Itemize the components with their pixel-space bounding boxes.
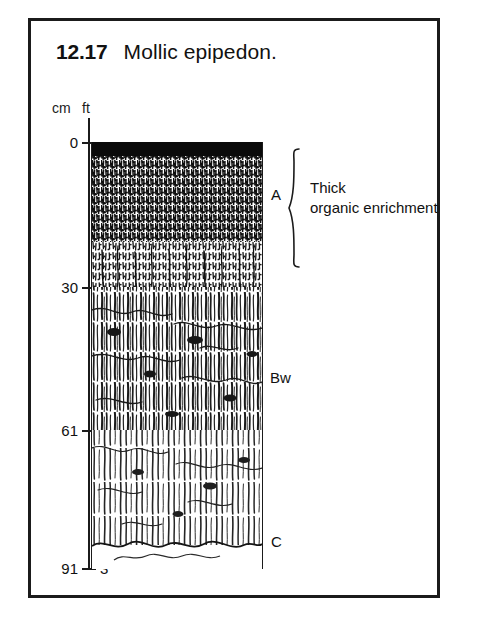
c-horizon-fill xyxy=(92,430,262,569)
soil-profile-drawing xyxy=(92,142,262,569)
depth-label-cm-91: 91 xyxy=(44,560,78,577)
depth-label-cm-30: 30 xyxy=(44,279,78,296)
annotation-text: Thick organic enrichment xyxy=(310,178,438,218)
horizon-label-bw: Bw xyxy=(270,369,291,386)
figure-title: Mollic epipedon. xyxy=(124,40,277,63)
depth-label-cm-0: 0 xyxy=(44,134,78,151)
depth-label-cm-61: 61 xyxy=(44,422,78,439)
depth-axis-line xyxy=(88,118,90,569)
figure-number: 12.17 xyxy=(56,40,108,63)
horizon-label-c: C xyxy=(271,533,282,550)
axis-unit-ft: ft xyxy=(82,100,90,116)
bw-horizon-fill xyxy=(92,287,262,430)
soil-profile xyxy=(92,142,262,569)
annotation-line-2: organic enrichment xyxy=(310,198,438,218)
curly-brace-icon xyxy=(286,148,304,268)
horizon-label-a: A xyxy=(271,186,281,203)
a-horizon-fill xyxy=(92,142,262,290)
annotation-line-1: Thick xyxy=(310,178,438,198)
figure-caption: 12.17Mollic epipedon. xyxy=(56,40,277,64)
axis-unit-cm: cm xyxy=(52,100,71,116)
